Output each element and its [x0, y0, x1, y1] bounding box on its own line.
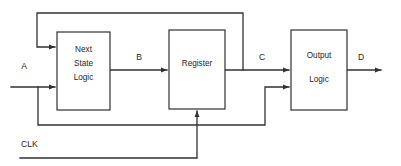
- fsm-block-diagram: Next State Logic Register Output Logic A…: [0, 0, 401, 166]
- block-register-label: Register: [182, 59, 213, 68]
- block-next-state-logic-label-line1: Next: [75, 45, 93, 54]
- block-next-state-logic: [57, 32, 110, 110]
- signal-label-c: C: [259, 52, 265, 62]
- block-next-state-logic-label-line2: State: [74, 59, 94, 68]
- block-output-logic-label-line2: Logic: [309, 75, 329, 84]
- signal-label-clk: CLK: [21, 139, 38, 149]
- signal-label-d: D: [358, 52, 364, 62]
- signal-label-b: B: [136, 52, 142, 62]
- block-output-logic: [291, 30, 347, 110]
- diagram-canvas: Next State Logic Register Output Logic A…: [0, 0, 401, 166]
- block-register: [169, 30, 225, 109]
- signal-label-a: A: [21, 61, 27, 71]
- clk-wire: [20, 111, 197, 158]
- block-output-logic-label-line1: Output: [307, 51, 332, 60]
- block-next-state-logic-label-line3: Logic: [74, 73, 94, 82]
